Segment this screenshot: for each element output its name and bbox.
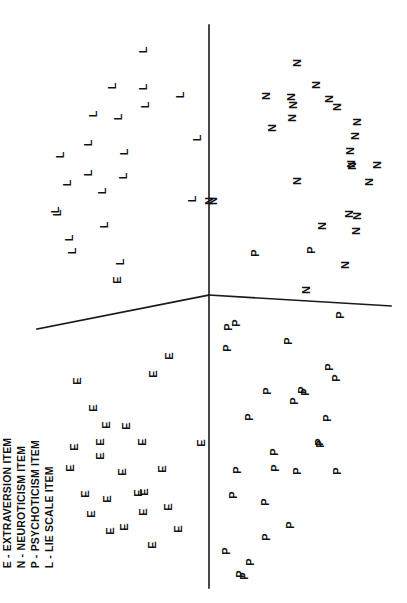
horizontal-axis-right-segment — [209, 295, 391, 306]
data-point-marker-l: L — [140, 102, 151, 109]
data-point-marker-p: P — [221, 547, 232, 554]
data-point-marker-p: P — [300, 388, 311, 395]
data-point-marker-l: L — [83, 170, 94, 177]
data-point-marker-n: N — [372, 161, 383, 169]
data-point-marker-l: L — [187, 196, 198, 203]
data-point-marker-e: E — [95, 438, 106, 445]
data-point-marker-e: E — [147, 541, 158, 548]
data-point-marker-p: P — [289, 397, 300, 404]
legend-entry-n: N - NEUROTICISM ITEM — [15, 438, 29, 569]
data-point-marker-e: E — [133, 489, 144, 496]
data-point-marker-l: L — [138, 47, 149, 54]
data-point-marker-l: L — [107, 83, 118, 90]
data-point-marker-l: L — [64, 235, 75, 242]
data-point-marker-e: E — [95, 452, 106, 459]
data-point-marker-e: E — [117, 468, 128, 475]
data-point-marker-n: N — [301, 286, 312, 294]
data-point-marker-n: N — [288, 101, 299, 109]
data-point-marker-e: E — [148, 370, 159, 377]
data-point-marker-p: P — [332, 467, 343, 474]
data-point-marker-e: E — [88, 404, 99, 411]
data-point-marker-p: P — [283, 337, 294, 344]
data-point-marker-e: E — [102, 495, 113, 502]
data-point-marker-l: L — [99, 222, 110, 229]
data-point-marker-p: P — [222, 344, 233, 351]
data-point-marker-l: L — [52, 210, 63, 217]
data-point-marker-n: N — [351, 227, 362, 235]
data-point-marker-n: N — [267, 124, 278, 132]
data-point-marker-l: L — [175, 92, 186, 99]
data-point-marker-e: E — [112, 276, 123, 283]
data-point-marker-p: P — [270, 464, 281, 471]
data-point-marker-n: N — [352, 118, 363, 126]
data-point-marker-n: N — [292, 59, 303, 67]
data-point-marker-l: L — [118, 173, 129, 180]
data-point-marker-n: N — [317, 222, 328, 230]
data-point-marker-n: N — [311, 81, 322, 89]
data-point-marker-n: N — [340, 261, 351, 269]
data-point-marker-n: N — [352, 212, 363, 220]
data-point-marker-p: P — [260, 498, 271, 505]
data-point-marker-l: L — [119, 149, 130, 156]
data-point-marker-e: E — [121, 422, 132, 429]
data-point-marker-e: E — [65, 464, 76, 471]
plot-area: LLLLLLLLLLLLLLLLLLLLLLNNNNNNNNNNNNNNNNNN… — [0, 0, 407, 603]
data-point-marker-e: E — [86, 510, 97, 517]
data-point-marker-n: N — [324, 95, 335, 103]
data-point-marker-l: L — [115, 259, 126, 266]
data-point-marker-e: E — [69, 443, 80, 450]
data-point-marker-e: E — [163, 503, 174, 510]
data-point-marker-p: P — [335, 311, 346, 318]
data-point-marker-l: L — [138, 84, 149, 91]
data-point-marker-p: P — [232, 466, 243, 473]
legend-entry-l: L - LIE SCALE ITEM — [43, 438, 57, 569]
data-point-marker-l: L — [62, 180, 73, 187]
data-point-marker-p: P — [250, 249, 261, 256]
data-point-marker-p: P — [292, 467, 303, 474]
data-point-marker-n: N — [350, 132, 361, 140]
legend-inner: E - EXTRAVERSION ITEMN - NEUROTICISM ITE… — [1, 438, 56, 569]
data-point-marker-e: E — [173, 525, 184, 532]
data-point-marker-n: N — [364, 178, 375, 186]
data-point-marker-l: L — [83, 140, 94, 147]
data-point-marker-n: N — [261, 92, 272, 100]
item-type-legend: E - EXTRAVERSION ITEMN - NEUROTICISM ITE… — [8, 440, 50, 566]
data-point-marker-p: P — [331, 374, 342, 381]
data-point-marker-l: L — [88, 111, 99, 118]
data-point-marker-e: E — [196, 439, 207, 446]
data-point-marker-l: L — [97, 188, 108, 195]
data-point-marker-p: P — [244, 413, 255, 420]
data-point-marker-l: L — [113, 114, 124, 121]
data-point-marker-p: P — [285, 521, 296, 528]
data-point-marker-p: P — [306, 246, 317, 253]
legend-entry-p: P - PSYCHOTICISM ITEM — [29, 438, 43, 569]
data-point-marker-e: E — [80, 490, 91, 497]
data-point-marker-e: E — [105, 527, 116, 534]
data-point-marker-e: E — [157, 465, 168, 472]
data-point-marker-n: N — [292, 177, 303, 185]
data-point-marker-p: P — [262, 387, 273, 394]
personality-item-scatter-figure: LLLLLLLLLLLLLLLLLLLLLLNNNNNNNNNNNNNNNNNN… — [0, 0, 407, 603]
data-point-marker-n: N — [332, 103, 343, 111]
horizontal-axis-left-segment — [37, 295, 209, 329]
data-point-marker-l: L — [55, 152, 66, 159]
data-point-marker-l: L — [67, 248, 78, 255]
data-point-marker-e: E — [138, 508, 149, 515]
axes-group — [0, 0, 407, 603]
data-point-marker-p: P — [324, 363, 335, 370]
data-point-marker-p: P — [315, 440, 326, 447]
data-point-marker-l: L — [192, 135, 203, 142]
data-point-marker-e: E — [101, 421, 112, 428]
data-point-marker-p: P — [228, 491, 239, 498]
data-point-marker-n: N — [204, 197, 215, 205]
data-point-marker-e: E — [72, 377, 83, 384]
data-point-marker-p: P — [223, 323, 234, 330]
data-point-marker-p: P — [239, 572, 250, 579]
data-point-marker-e: E — [164, 352, 175, 359]
data-point-marker-n: N — [287, 114, 298, 122]
data-point-marker-p: P — [245, 558, 256, 565]
data-point-marker-n: N — [347, 162, 358, 170]
data-point-marker-e: E — [119, 523, 130, 530]
data-point-marker-p: P — [322, 414, 333, 421]
data-point-marker-p: P — [269, 448, 280, 455]
